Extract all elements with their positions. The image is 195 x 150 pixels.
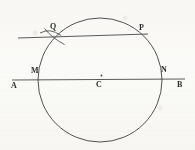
point-label-b: B	[177, 81, 182, 89]
geometry-canvas	[0, 0, 195, 150]
point-label-n: N	[161, 66, 167, 74]
point-label-c: C	[96, 81, 102, 89]
center-point-dot	[101, 75, 103, 77]
point-m-marker	[39, 80, 40, 81]
point-q-marker	[54, 35, 55, 36]
point-label-a: A	[11, 82, 17, 90]
point-label-q: Q	[50, 23, 56, 31]
point-label-p: P	[139, 24, 144, 32]
line-qp	[18, 34, 148, 38]
point-label-m: M	[31, 67, 39, 75]
point-p-marker	[145, 34, 146, 35]
point-n-marker	[161, 79, 162, 80]
geometry-figure: A B C M N P Q	[0, 0, 195, 150]
